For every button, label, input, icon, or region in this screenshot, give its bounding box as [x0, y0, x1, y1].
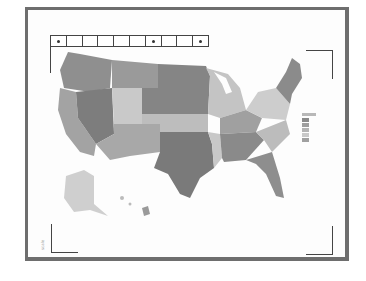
- region-northern-rockies: [112, 60, 158, 88]
- toolbar-cell-5[interactable]: [114, 36, 130, 46]
- map-toolbar: [50, 35, 209, 47]
- toolbar-cell-7[interactable]: [146, 36, 162, 46]
- region-hawaii-1: [120, 196, 124, 200]
- legend-swatch: [302, 118, 309, 122]
- region-texas: [154, 132, 214, 198]
- corner-bracket-top-right: [306, 50, 333, 79]
- legend-swatch: [302, 133, 309, 137]
- us-choropleth-map[interactable]: [50, 48, 310, 228]
- scale-label: scale: [40, 228, 48, 250]
- map-legend: [302, 113, 316, 143]
- toolbar-cell-2[interactable]: [67, 36, 83, 46]
- toolbar-cell-10[interactable]: [193, 36, 208, 46]
- legend-swatch: [302, 138, 309, 142]
- dot-icon: [199, 40, 202, 43]
- legend-swatch: [302, 123, 309, 127]
- corner-bracket-bottom-right: [306, 226, 333, 255]
- corner-bracket-bottom-left: [51, 224, 78, 253]
- toolbar-cell-6[interactable]: [130, 36, 146, 46]
- toolbar-cell-4[interactable]: [98, 36, 114, 46]
- region-alaska: [64, 170, 108, 216]
- toolbar-cell-9[interactable]: [177, 36, 193, 46]
- toolbar-cell-8[interactable]: [162, 36, 178, 46]
- region-southeast: [256, 120, 290, 152]
- toolbar-cell-1[interactable]: [51, 36, 67, 46]
- region-hawaii-3: [142, 206, 150, 216]
- region-hawaii-2: [129, 203, 132, 206]
- legend-title: [302, 113, 316, 116]
- region-colorado: [112, 88, 142, 124]
- region-northwest: [60, 52, 112, 92]
- dot-icon: [152, 40, 155, 43]
- legend-swatch: [302, 128, 309, 132]
- dot-icon: [57, 40, 60, 43]
- region-florida: [246, 152, 284, 198]
- toolbar-cell-3[interactable]: [83, 36, 99, 46]
